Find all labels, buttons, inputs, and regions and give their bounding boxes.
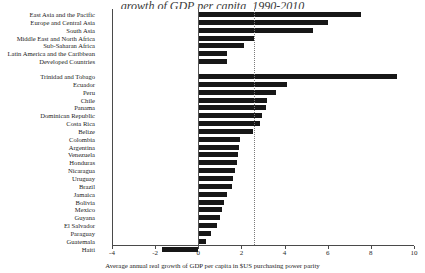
x-axis-title: Average annual real growth of GDP per ca… — [0, 262, 425, 269]
axis-tick-label: -4 — [100, 249, 124, 257]
bar — [198, 176, 233, 181]
bar — [198, 113, 262, 118]
category-label: Ecuador — [0, 81, 95, 88]
category-label: Belize — [0, 128, 95, 135]
category-label: Jamaica — [0, 191, 95, 198]
bar — [198, 215, 220, 220]
axis-tick-label: -2 — [143, 249, 167, 257]
chart-root: growth of GDP per capita, 1990-2010 East… — [0, 0, 425, 273]
category-label: Developed Countries — [0, 58, 95, 65]
category-label: East Asia and the Pacific — [0, 11, 95, 18]
category-label: Paraguay — [0, 230, 95, 237]
category-label: Chile — [0, 97, 95, 104]
zero-line — [198, 9, 199, 245]
category-label: Brazil — [0, 183, 95, 190]
bar — [198, 59, 227, 64]
category-label: Trinidad and Tobago — [0, 73, 95, 80]
bar — [198, 152, 238, 157]
category-label: Venezuela — [0, 151, 95, 158]
bar — [198, 36, 254, 41]
category-label: Dominican Republic — [0, 112, 95, 119]
category-label: Latin America and the Caribbean — [0, 50, 95, 57]
axis-tick-label: 4 — [273, 249, 297, 257]
axis-tick-label: 6 — [316, 249, 340, 257]
category-label: Honduras — [0, 159, 95, 166]
bar — [198, 231, 211, 236]
reference-line — [254, 9, 255, 245]
bar — [198, 43, 243, 48]
axis-tick-label: 2 — [229, 249, 253, 257]
axis-baseline — [112, 245, 414, 246]
bar — [198, 121, 259, 126]
category-label: Colombia — [0, 136, 95, 143]
category-label: Costa Rica — [0, 120, 95, 127]
axis-tick-label: 0 — [186, 249, 210, 257]
category-label: Panama — [0, 104, 95, 111]
category-label: Guatemala — [0, 238, 95, 245]
bar — [198, 145, 239, 150]
bar — [198, 20, 327, 25]
bar — [198, 192, 227, 197]
bar — [198, 168, 235, 173]
category-label: Nicaragua — [0, 167, 95, 174]
category-label: Guyana — [0, 214, 95, 221]
bar — [198, 207, 222, 212]
left-spine — [112, 9, 113, 245]
category-label: Mexico — [0, 206, 95, 213]
bar — [198, 129, 253, 134]
bar — [198, 82, 286, 87]
category-label: Haiti — [0, 246, 95, 253]
bar — [198, 74, 396, 79]
axis-tick-label: 8 — [359, 249, 383, 257]
bar — [198, 160, 237, 165]
bar — [198, 105, 266, 110]
bar — [198, 200, 224, 205]
axis-tick-label: 10 — [402, 249, 425, 257]
bar — [198, 51, 227, 56]
bar — [198, 12, 361, 17]
bar — [198, 223, 216, 228]
category-label: Argentina — [0, 144, 95, 151]
category-label: South Asia — [0, 27, 95, 34]
bar — [198, 90, 276, 95]
category-label: Peru — [0, 89, 95, 96]
category-label: Sub-Saharan Africa — [0, 42, 95, 49]
bar — [198, 98, 267, 103]
category-label: Bolivia — [0, 199, 95, 206]
category-label: Middle East and North Africa — [0, 35, 95, 42]
bar — [198, 184, 231, 189]
category-label: Uruguay — [0, 175, 95, 182]
bar — [198, 239, 206, 244]
category-label: Europe and Central Asia — [0, 19, 95, 26]
plot-area: East Asia and the PacificEurope and Cent… — [0, 8, 425, 248]
bar — [198, 28, 312, 33]
category-label: El Salvador — [0, 222, 95, 229]
bar — [198, 137, 240, 142]
